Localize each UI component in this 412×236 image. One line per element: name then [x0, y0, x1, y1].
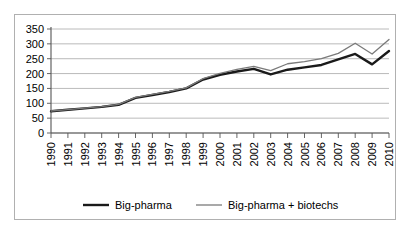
series-line	[51, 51, 389, 111]
x-axis-tick-label: 2000	[214, 142, 226, 166]
gridlines	[51, 29, 389, 133]
x-axis-tick-label: 1999	[197, 142, 209, 166]
y-axis: 050100150200250300350	[26, 23, 51, 139]
legend-label: Big-pharma	[115, 199, 173, 211]
chart-container: 050100150200250300350 199019911992199319…	[14, 14, 396, 220]
x-axis-tick-label: 2003	[265, 142, 277, 166]
x-axis-tick-label: 2004	[282, 142, 294, 166]
x-axis-tick-label: 2009	[366, 142, 378, 166]
x-axis-tick-label: 1990	[45, 142, 57, 166]
y-axis-tick-label: 50	[32, 112, 44, 124]
line-chart: 050100150200250300350 199019911992199319…	[15, 15, 395, 219]
x-axis-tick-label: 1996	[146, 142, 158, 166]
x-axis-tick-label: 1998	[180, 142, 192, 166]
series-lines	[51, 39, 389, 111]
x-axis-tick-label: 2010	[383, 142, 395, 166]
chart-legend: Big-pharmaBig-pharma + biotechs	[83, 199, 339, 211]
y-axis-tick-label: 200	[26, 68, 44, 80]
x-axis-tick-label: 1991	[62, 142, 74, 166]
x-axis-tick-label: 2007	[332, 142, 344, 166]
y-axis-tick-label: 300	[26, 38, 44, 50]
y-axis-tick-label: 250	[26, 53, 44, 65]
x-axis-tick-label: 1995	[130, 142, 142, 166]
x-axis-tick-label: 1993	[96, 142, 108, 166]
x-axis-tick-label: 2005	[299, 142, 311, 166]
x-axis-tick-label: 2006	[315, 142, 327, 166]
y-axis-tick-label: 150	[26, 82, 44, 94]
x-axis-tick-label: 2001	[231, 142, 243, 166]
y-axis-tick-label: 350	[26, 23, 44, 35]
x-axis-tick-label: 2002	[248, 142, 260, 166]
x-axis: 1990199119921993199419951996199719981999…	[45, 133, 395, 166]
x-axis-tick-label: 1997	[163, 142, 175, 166]
legend-label: Big-pharma + biotechs	[228, 199, 339, 211]
x-axis-tick-label: 1992	[79, 142, 91, 166]
x-axis-tick-label: 1994	[113, 142, 125, 166]
y-axis-tick-label: 100	[26, 97, 44, 109]
x-axis-tick-label: 2008	[349, 142, 361, 166]
y-axis-tick-label: 0	[38, 127, 44, 139]
